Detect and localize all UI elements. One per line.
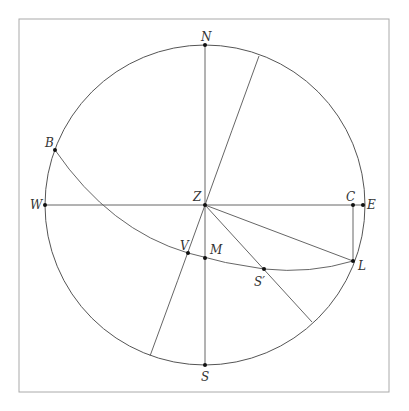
label-s: S [201, 370, 209, 384]
label-b: B [44, 136, 54, 150]
point-s-prime [262, 267, 266, 271]
point-e [361, 203, 365, 207]
celestial-diagram: NSWEZCLBVMS′ [0, 0, 409, 411]
label-z: Z [192, 190, 202, 204]
label-l: L [357, 259, 366, 273]
arc-B-V-M-S-prime-L [55, 150, 353, 270]
point-m [203, 256, 207, 260]
label-w: W [30, 198, 44, 212]
segment-Z-L [205, 205, 353, 261]
point-z [203, 203, 207, 207]
label-v: V [180, 239, 190, 253]
point-l [351, 259, 355, 263]
ray-Z-S-prime [205, 205, 312, 322]
point-s [203, 363, 207, 367]
label-n: N [200, 30, 212, 44]
label-s-prime: S′ [254, 275, 265, 289]
label-e: E [366, 198, 376, 212]
labels-group: NSWEZCLBVMS′ [30, 30, 376, 384]
label-c: C [346, 190, 355, 204]
label-m: M [209, 243, 223, 257]
point-w [43, 203, 47, 207]
